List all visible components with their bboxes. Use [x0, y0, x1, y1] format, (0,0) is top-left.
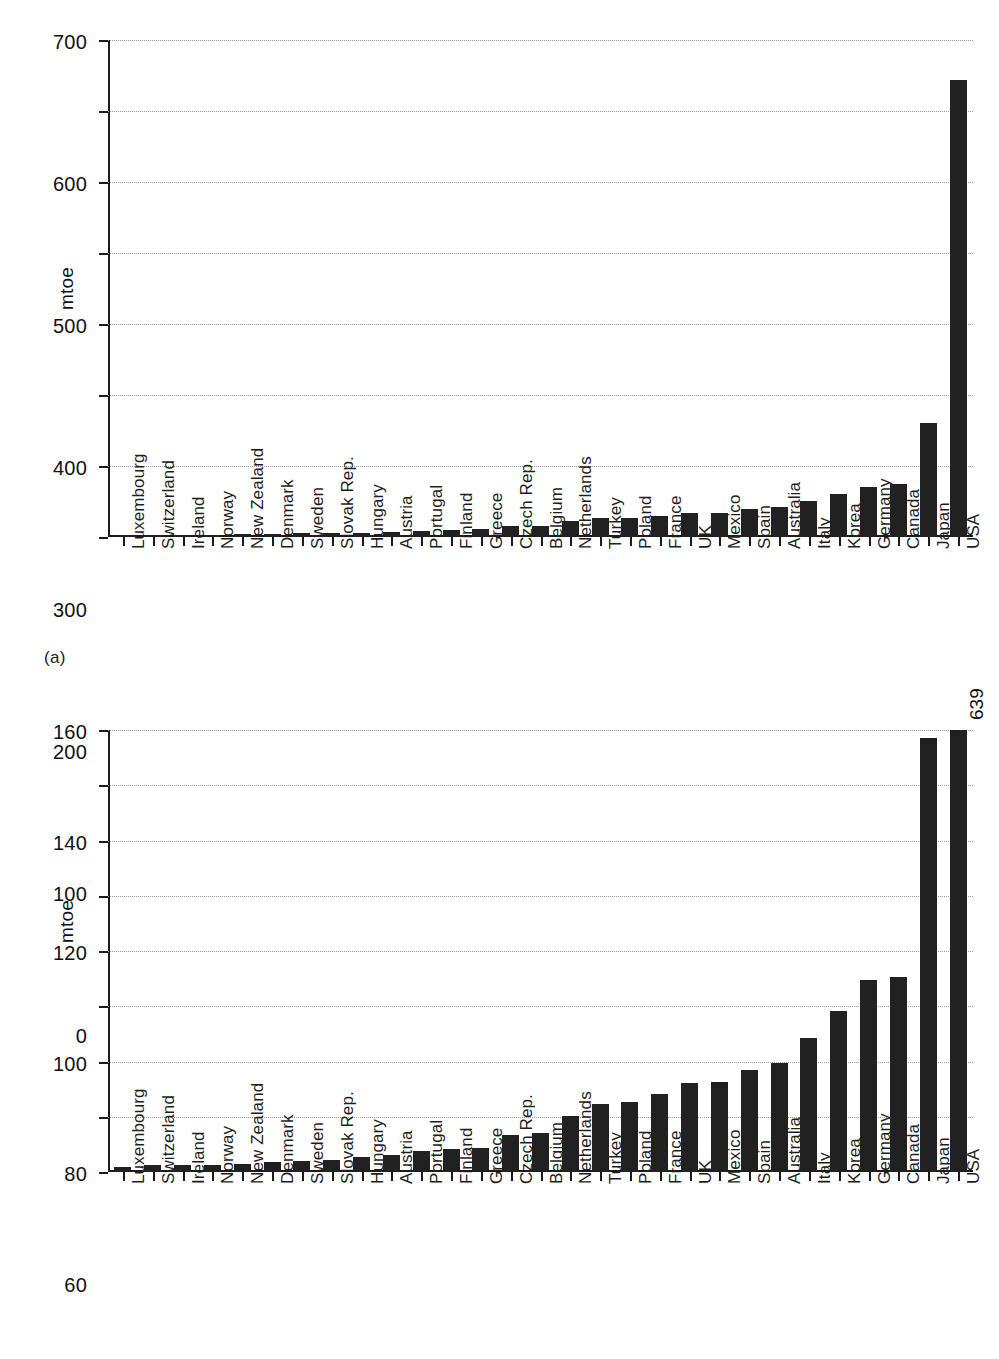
- y-axis-tick-label: 120: [53, 942, 87, 965]
- gridline: [108, 1006, 973, 1007]
- x-axis-category-label: Ireland: [189, 1131, 209, 1184]
- gridline: [108, 253, 973, 254]
- x-axis-tick: [481, 537, 483, 546]
- x-axis-category-label: Belgium: [547, 487, 567, 549]
- x-axis-tick: [898, 537, 900, 546]
- y-axis-tick: 200: [99, 395, 108, 397]
- y-axis-tick: 120: [99, 841, 108, 843]
- x-axis-category-label: Finland: [457, 493, 477, 549]
- x-axis-category-label: Hungary: [368, 1119, 388, 1184]
- x-axis-tick: [183, 1172, 185, 1181]
- x-axis-tick: [153, 537, 155, 546]
- x-axis-tick: [719, 1172, 721, 1181]
- x-axis-tick: [630, 537, 632, 546]
- gridline: [108, 182, 973, 183]
- gridline: [108, 951, 973, 952]
- x-axis-tick: [749, 1172, 751, 1181]
- x-axis-tick: [391, 1172, 393, 1181]
- x-axis-category-label: Austria: [397, 495, 417, 549]
- y-axis-tick-label: 300: [53, 599, 87, 622]
- y-axis-tick: 80: [99, 951, 108, 953]
- y-axis-label-b: mtoe: [56, 900, 78, 943]
- y-axis-tick: 100: [99, 466, 108, 468]
- y-axis-tick-label: 60: [64, 1273, 87, 1296]
- x-axis-category-label: Hungary: [368, 484, 388, 549]
- y-axis-tick: 400: [99, 253, 108, 255]
- y-axis-label-a: mtoe: [56, 267, 78, 310]
- bar-value-annotation: 639: [966, 688, 988, 720]
- plot-area-a: 0100200300400500600700LuxembourgSwitzerl…: [108, 40, 973, 537]
- gridline: [108, 111, 973, 112]
- x-axis-tick: [212, 1172, 214, 1181]
- x-axis-tick: [451, 537, 453, 546]
- gridline: [108, 730, 973, 731]
- gridline: [108, 466, 973, 467]
- gridline: [108, 896, 973, 897]
- x-axis-tick: [779, 1172, 781, 1181]
- x-axis-tick: [123, 1172, 125, 1181]
- x-axis-tick: [302, 1172, 304, 1181]
- x-axis-tick: [869, 1172, 871, 1181]
- y-axis-tick: 600: [99, 111, 108, 113]
- x-axis-tick: [481, 1172, 483, 1181]
- y-axis-tick: 60: [99, 1006, 108, 1008]
- x-axis-category-label: Portugal: [427, 485, 447, 549]
- x-axis-tick: [660, 1172, 662, 1181]
- y-axis-tick-label: 500: [53, 315, 87, 338]
- x-axis-tick: [869, 537, 871, 546]
- x-axis-tick: [779, 537, 781, 546]
- y-axis-tick: 300: [99, 324, 108, 326]
- y-axis-tick: 100: [99, 896, 108, 898]
- y-axis-tick: 700: [99, 40, 108, 42]
- y-axis-tick-label: 700: [53, 31, 87, 54]
- x-axis-category-label: Greece: [487, 493, 507, 549]
- x-axis-tick: [332, 1172, 334, 1181]
- y-axis-tick-label: 100: [53, 1052, 87, 1075]
- x-axis-tick: [391, 537, 393, 546]
- x-axis-category-label: Denmark: [278, 479, 298, 549]
- x-axis-tick: [749, 537, 751, 546]
- x-axis-tick: [928, 537, 930, 546]
- gridline: [108, 40, 973, 41]
- x-axis-tick: [839, 1172, 841, 1181]
- chart-panel-a: mtoe 0100200300400500600700LuxembourgSwi…: [0, 0, 999, 690]
- x-axis-category-label: USA: [964, 1149, 984, 1184]
- x-axis-tick: [928, 1172, 930, 1181]
- x-axis-tick: [541, 1172, 543, 1181]
- x-axis-category-label: Norway: [218, 491, 238, 549]
- bar-japan: [920, 738, 937, 1172]
- y-axis-tick: 20: [99, 1117, 108, 1119]
- x-axis-tick: [958, 537, 960, 546]
- bar-usa: [950, 80, 967, 537]
- bar-usa: [950, 730, 967, 1172]
- gridline: [108, 324, 973, 325]
- x-axis-tick: [421, 537, 423, 546]
- x-axis-tick: [362, 1172, 364, 1181]
- x-axis-tick: [511, 537, 513, 546]
- x-axis-tick: [898, 1172, 900, 1181]
- x-axis-tick: [570, 1172, 572, 1181]
- panel-tag-a: (a): [44, 648, 66, 668]
- x-axis-tick: [809, 537, 811, 546]
- x-axis-tick: [511, 1172, 513, 1181]
- x-axis-tick: [719, 537, 721, 546]
- x-axis-tick: [660, 537, 662, 546]
- x-axis-tick: [690, 1172, 692, 1181]
- y-axis-tick: 140: [99, 785, 108, 787]
- x-axis-tick: [421, 1172, 423, 1181]
- x-axis-tick: [123, 537, 125, 546]
- y-axis-tick: 40: [99, 1062, 108, 1064]
- x-axis-tick: [570, 537, 572, 546]
- x-axis-tick: [451, 1172, 453, 1181]
- x-axis-tick: [600, 537, 602, 546]
- x-axis-tick: [212, 537, 214, 546]
- x-axis-tick: [958, 1172, 960, 1181]
- gridline: [108, 841, 973, 842]
- gridline: [108, 395, 973, 396]
- x-axis-category-label: Ireland: [189, 496, 209, 549]
- x-axis-tick: [362, 537, 364, 546]
- x-axis-tick: [541, 537, 543, 546]
- y-axis-tick: 0: [99, 537, 108, 539]
- x-axis-tick: [839, 537, 841, 546]
- y-axis-tick-label: 600: [53, 173, 87, 196]
